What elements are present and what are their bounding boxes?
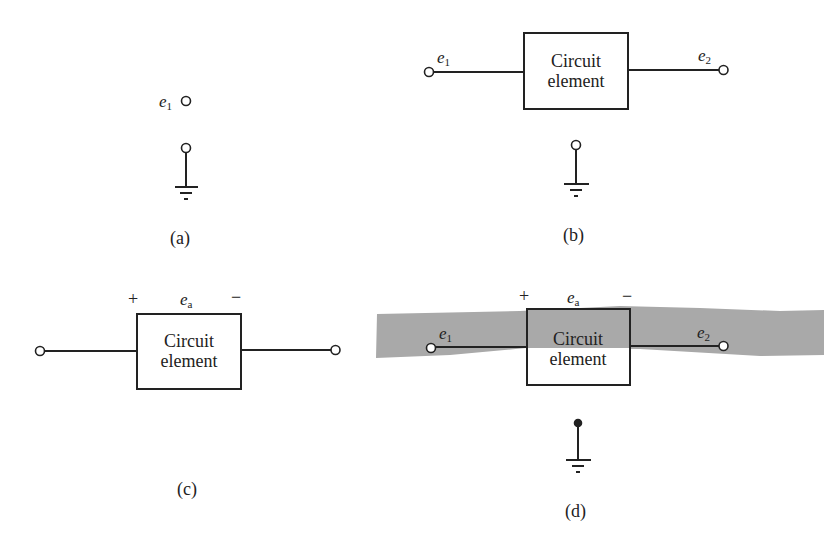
terminal-e1 (182, 97, 191, 106)
panel-c: + ea − Circuit element (c) (36, 287, 341, 500)
terminal-left (427, 344, 436, 353)
caption-b: (b) (563, 225, 584, 246)
box-text-line1: Circuit (551, 51, 601, 71)
terminal-right (719, 342, 728, 351)
node-label-e1: e1 (159, 92, 172, 112)
plus-sign: + (128, 289, 138, 309)
box-text-line1: Circuit (164, 331, 214, 351)
terminal-right (331, 346, 340, 355)
voltage-label-ea: ea (180, 290, 193, 310)
panel-a: e1 (a) (159, 92, 198, 249)
panel-d: + ea − Circuit element e1 e2 (d) (376, 286, 824, 522)
ground-icon (564, 141, 589, 197)
minus-sign: − (231, 287, 241, 307)
caption-a: (a) (170, 228, 190, 249)
terminal-right (719, 66, 728, 75)
terminal-left (36, 347, 45, 356)
box-text-line2: element (548, 71, 605, 91)
plus-sign: + (519, 286, 529, 306)
ground-icon (175, 144, 198, 200)
ground-icon (566, 420, 591, 473)
terminal-left (425, 68, 434, 77)
minus-sign: − (622, 286, 632, 306)
panel-b: e1 Circuit element e2 (b) (425, 33, 729, 246)
label-e1: e1 (437, 48, 450, 68)
caption-d: (d) (565, 501, 586, 522)
label-e2: e2 (698, 46, 711, 66)
box-text-line2: element (161, 351, 218, 371)
voltage-label-ea: ea (567, 288, 580, 308)
caption-c: (c) (177, 479, 197, 500)
circuit-figure: e1 (a) e1 Circuit element e2 (b) (0, 0, 824, 553)
box-text-line1: Circuit (553, 329, 603, 349)
box-text-line2: element (550, 349, 607, 369)
